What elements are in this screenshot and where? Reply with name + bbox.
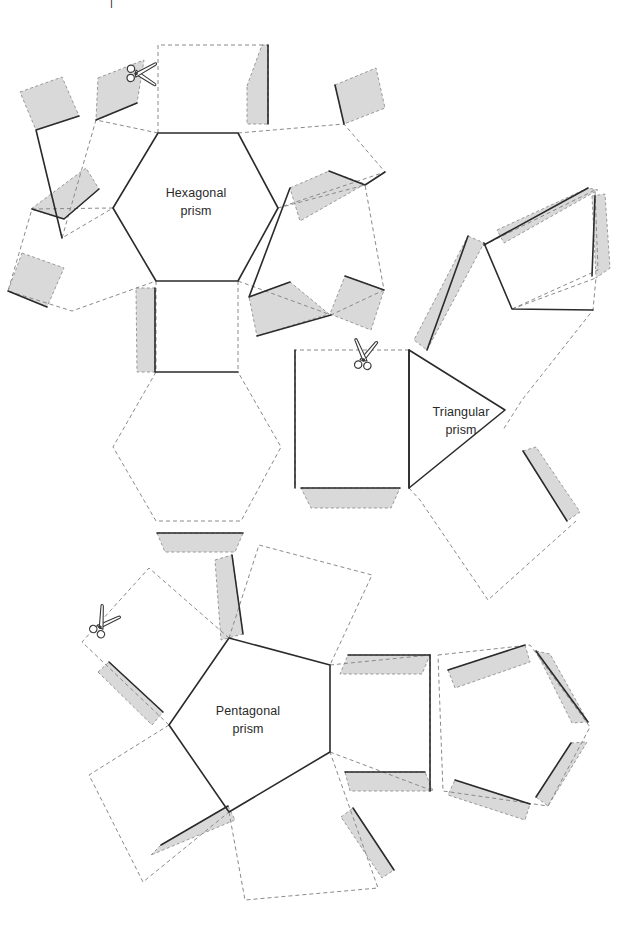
glue-flap	[523, 447, 580, 521]
glue-flap	[497, 188, 598, 243]
prism-nets-drawing: Hexagonal prism	[0, 0, 629, 930]
glue-flap	[301, 488, 400, 508]
glue-flap	[215, 555, 243, 640]
glue-flap	[290, 171, 365, 221]
glue-flap	[96, 60, 144, 120]
glue-flap	[536, 742, 587, 806]
scissors-icon	[86, 604, 121, 641]
glue-flap	[341, 808, 394, 878]
pentagonal-prism-label-line2: prism	[232, 722, 263, 736]
scissors-icon	[351, 338, 378, 370]
glue-flap	[20, 77, 79, 130]
hexagonal-prism-label-line2: prism	[180, 204, 211, 218]
tri-glue-flaps	[301, 188, 610, 521]
triangular-prism-label-line1: Triangular	[433, 405, 490, 419]
tri-fold-lines	[295, 190, 598, 600]
net-triangular-prism: Triangular prism	[295, 188, 610, 600]
glue-flap	[136, 288, 155, 372]
glue-flap	[98, 662, 163, 725]
pent-fold-lines	[82, 545, 590, 900]
pent-glue-flaps	[98, 555, 588, 878]
net-pentagonal-prism: Pentagonal prism	[82, 545, 590, 900]
glue-flap	[414, 236, 484, 350]
top-text-fragment: |	[110, 0, 113, 8]
triangular-prism-label-line2: prism	[445, 423, 476, 437]
glue-flap	[249, 282, 329, 336]
worksheet-sheet: Hexagonal prism	[0, 0, 629, 930]
scissors-icons-group	[86, 62, 378, 641]
pentagonal-prism-label-line1: Pentagonal	[216, 704, 280, 718]
hexagonal-prism-label-line1: Hexagonal	[166, 186, 227, 200]
glue-flap	[247, 45, 268, 124]
net-hexagonal-prism: Hexagonal prism	[8, 45, 385, 552]
glue-flap	[157, 533, 243, 552]
glue-flap	[340, 655, 430, 674]
glue-flap	[151, 806, 235, 855]
